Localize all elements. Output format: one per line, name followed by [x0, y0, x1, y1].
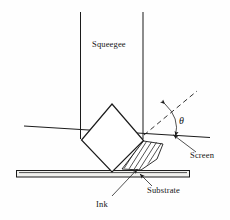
diagram-canvas: θ Squeegee Screen Substrate Ink: [0, 0, 230, 220]
squeegee-diagram: θ Squeegee Screen Substrate Ink: [0, 0, 230, 220]
theta-angle-arc: [165, 104, 177, 136]
substrate-label: Substrate: [147, 185, 180, 195]
substrate-bar: [17, 171, 190, 178]
squeegee-label: Squeegee: [92, 39, 126, 49]
ink-label: Ink: [96, 199, 108, 209]
dashed-reference-line: [144, 91, 197, 135]
theta-label: θ: [179, 115, 184, 126]
screen-label: Screen: [190, 150, 215, 160]
